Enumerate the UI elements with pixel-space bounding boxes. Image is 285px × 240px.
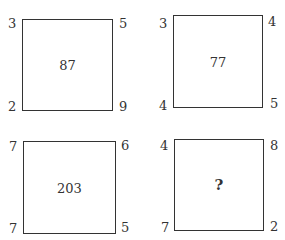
box-4-unknown-value: ? (175, 176, 263, 194)
puzzle-box-4: ? (174, 139, 264, 231)
box-3-bottom-right: 5 (121, 221, 129, 234)
box-1-top-right: 5 (119, 17, 127, 30)
box-1-bottom-right: 9 (119, 100, 127, 113)
box-2-top-right: 4 (268, 15, 276, 28)
box-1-center-value: 87 (23, 58, 112, 73)
box-3-top-left: 7 (9, 140, 17, 153)
box-2-bottom-right: 5 (270, 97, 278, 110)
puzzle-box-1: 87 (22, 19, 113, 111)
box-4-top-left: 4 (160, 139, 168, 152)
box-2-bottom-left: 4 (159, 99, 167, 112)
box-4-top-right: 8 (270, 139, 278, 152)
box-1-bottom-left: 2 (8, 100, 16, 113)
box-4-bottom-right: 2 (270, 220, 278, 233)
box-3-top-right: 6 (121, 139, 129, 152)
box-1-top-left: 3 (8, 17, 16, 30)
box-4-bottom-left: 7 (161, 221, 169, 234)
box-2-top-left: 3 (159, 17, 167, 30)
puzzle-box-2: 77 (173, 15, 263, 108)
puzzle-box-3: 203 (23, 141, 116, 234)
box-3-bottom-left: 7 (9, 222, 17, 235)
box-3-center-value: 203 (24, 180, 115, 195)
box-2-center-value: 77 (174, 54, 262, 69)
